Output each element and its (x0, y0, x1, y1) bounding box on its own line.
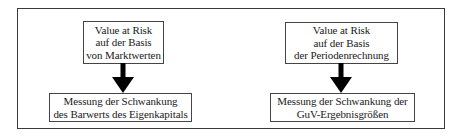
box-line: Value at Risk (313, 24, 370, 37)
box-line: der Periodenrechnung (294, 49, 389, 62)
box-line: Messung der Schwankung (64, 95, 178, 108)
income-statement-results-box: Messung der Schwankung der GuV-Ergebnisg… (270, 93, 415, 122)
box-line: Messung der Schwankung der (277, 95, 407, 108)
box-line: GuV-Ergebnisgrößen (297, 108, 389, 121)
box-line: von Marktwerten (86, 49, 161, 62)
arrow-down-icon (112, 63, 134, 93)
var-period-accounting-box: Value at Risk auf der Basis der Perioden… (285, 22, 398, 64)
equity-present-value-box: Messung der Schwankung des Barwerts des … (49, 93, 192, 122)
box-line: des Barwerts des Eigenkapitals (53, 108, 187, 121)
box-line: auf der Basis (313, 37, 369, 50)
box-line: Value at Risk (95, 24, 152, 37)
box-line: auf der Basis (95, 36, 151, 49)
var-market-value-box: Value at Risk auf der Basis von Marktwer… (83, 21, 164, 64)
arrow-down-icon (330, 63, 352, 93)
